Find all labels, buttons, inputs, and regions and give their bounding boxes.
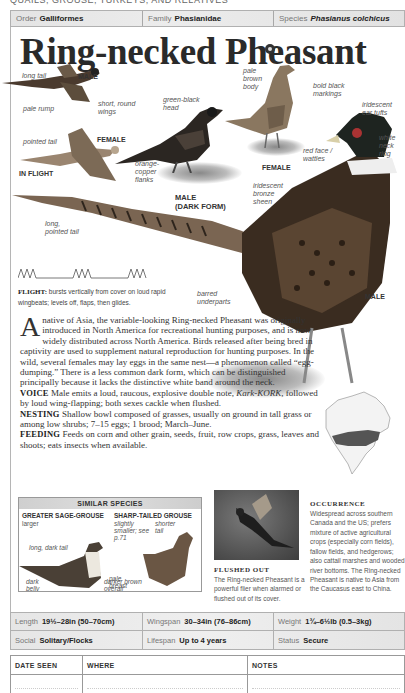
label-green-black-head: green-black head: [163, 96, 203, 112]
fact-status: StatusSecure: [274, 631, 404, 649]
similar-species-panel: SIMILAR SPECIES GREATER SAGE-GROUSE larg…: [18, 497, 202, 592]
taxonomy-family: Family Phasianidae: [143, 11, 274, 26]
dropcap: A: [20, 316, 40, 338]
voice-paragraph: VOICE Male emits a loud, raucous, explos…: [20, 388, 320, 409]
label-iridescent-bronze-sheen: iridescent bronze sheen: [253, 182, 288, 206]
flying-male-pheasant-illustration: [2, 64, 102, 104]
caption-male: MALE: [365, 293, 385, 301]
where-field[interactable]: [83, 675, 248, 693]
flight-pattern-icon: [18, 267, 158, 279]
flushed-out-text: The Ring-necked Pheasant is a powerful f…: [214, 575, 309, 603]
range-map: [318, 388, 400, 476]
column-header-notes: NOTES: [248, 656, 405, 674]
taxonomy-bar: Order Galliformes Family Phasianidae Spe…: [10, 10, 405, 27]
taxonomy-species: Species Phasianus colchicus: [274, 11, 404, 26]
label-long-tail: long tail: [22, 72, 46, 80]
column-header-where: WHERE: [83, 656, 248, 674]
fact-wingspan: Wingspan30–34in (76–86cm): [143, 613, 274, 630]
label-long-pointed-tail: long, pointed tail: [45, 220, 85, 236]
label-iridescent-ear-tufts: iridescent ear tufts: [362, 101, 402, 117]
fact-length: Length19½–28in (50–70cm): [11, 613, 143, 630]
occurrence-title: OCCURRENCE: [310, 500, 365, 508]
running-head: QUAILS, GROUSE, TURKEYS, AND RELATIVES: [10, 0, 228, 5]
occurrence-text: Widespread across southern Canada and th…: [310, 509, 405, 594]
label-red-face-wattles: red face / wattles: [303, 147, 333, 163]
similar-species-name: SHARP-TAILED GROUSE: [114, 512, 192, 519]
feeding-paragraph: FEEDING Feeds on corn and other grain, s…: [20, 429, 320, 450]
label-barred-underparts: barred underparts: [197, 290, 232, 306]
fact-lifespan: LifespanUp to 4 years: [143, 631, 274, 649]
label-pale-rump: pale rump: [23, 105, 54, 113]
facts-table: Length19½–28in (50–70cm) Wingspan30–34in…: [10, 612, 405, 650]
date-seen-field[interactable]: [11, 675, 83, 693]
nesting-paragraph: NESTING Shallow bowl composed of grasses…: [20, 409, 320, 430]
intro-paragraph: A native of Asia, the variable-looking R…: [20, 315, 320, 388]
notes-field[interactable]: [248, 675, 405, 693]
column-header-date-seen: DATE SEEN: [11, 656, 83, 674]
similar-species-name: GREATER SAGE-GROUSE: [22, 512, 104, 519]
similar-species-title: SIMILAR SPECIES: [19, 498, 201, 509]
flight-description: FLIGHT: bursts vertically from cover on …: [18, 287, 168, 307]
table-row: [11, 675, 405, 693]
speaker-icon[interactable]: [265, 44, 275, 54]
fact-social: SocialSolitary/Flocks: [11, 631, 143, 649]
label-bold-black-markings: bold black markings: [313, 82, 351, 98]
caption-flight-male: MALE: [78, 73, 98, 81]
label-pale-brown-body: pale brown body: [243, 67, 271, 91]
flushed-out-title: FLUSHED OUT: [214, 566, 269, 574]
label-white-neck-ring: white neck ring: [379, 134, 403, 158]
taxonomy-order: Order Galliformes: [11, 11, 143, 26]
fact-weight: Weight1¾–6½lb (0.5–3kg): [274, 613, 404, 630]
flushed-out-photo: [214, 490, 299, 560]
species-description: A native of Asia, the variable-looking R…: [20, 315, 320, 450]
sightings-notes-table: DATE SEEN WHERE NOTES: [10, 655, 405, 693]
